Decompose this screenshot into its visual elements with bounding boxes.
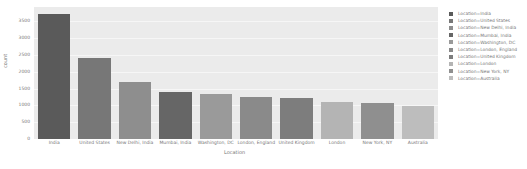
legend-label: Location=United States bbox=[458, 18, 510, 23]
legend-label: Location=Washington, DC bbox=[458, 40, 515, 45]
legend-item[interactable]: Location=New York, NY bbox=[449, 68, 517, 75]
x-tick-label: India bbox=[34, 140, 74, 146]
legend-label: Location=Australia bbox=[458, 76, 500, 81]
x-tick-label: United Kingdom bbox=[276, 140, 316, 146]
legend-swatch-icon bbox=[449, 48, 453, 52]
y-tick-label: 0 bbox=[0, 136, 30, 142]
x-tick-label: United States bbox=[74, 140, 114, 146]
legend-item[interactable]: Location=Washington, DC bbox=[449, 39, 517, 46]
bar[interactable] bbox=[361, 103, 393, 139]
y-tick-label: 1000 bbox=[0, 102, 30, 108]
legend-swatch-icon bbox=[449, 19, 453, 23]
x-tick-label: Washington, DC bbox=[196, 140, 236, 146]
y-tick-label: 1500 bbox=[0, 86, 30, 92]
y-tick-label: 500 bbox=[0, 119, 30, 125]
legend-item[interactable]: Location=New Delhi, India bbox=[449, 24, 517, 31]
bar[interactable] bbox=[200, 94, 232, 139]
legend-label: Location=New York, NY bbox=[458, 69, 509, 74]
legend-swatch-icon bbox=[449, 55, 453, 59]
x-tick-label: Mumbai, India bbox=[155, 140, 195, 146]
legend-swatch-icon bbox=[449, 12, 453, 16]
x-tick-label: Australia bbox=[398, 140, 438, 146]
legend-label: Location=London, England bbox=[458, 47, 517, 52]
x-tick-label: London bbox=[317, 140, 357, 146]
legend-item[interactable]: Location=Australia bbox=[449, 75, 517, 82]
legend-label: Location=Mumbai, India bbox=[458, 33, 511, 38]
y-axis-label: count bbox=[2, 54, 8, 68]
bar[interactable] bbox=[280, 98, 312, 139]
legend-item[interactable]: Location=Mumbai, India bbox=[449, 32, 517, 39]
x-tick-label: London, England bbox=[236, 140, 276, 146]
legend-swatch-icon bbox=[449, 69, 453, 73]
legend-swatch-icon bbox=[449, 40, 453, 44]
bar[interactable] bbox=[78, 58, 110, 139]
bar[interactable] bbox=[321, 102, 353, 139]
legend-label: Location=India bbox=[458, 11, 491, 16]
legend: Location=IndiaLocation=United StatesLoca… bbox=[449, 10, 517, 82]
bar[interactable] bbox=[240, 97, 272, 139]
bar[interactable] bbox=[119, 82, 151, 139]
legend-label: Location=London bbox=[458, 61, 496, 66]
x-axis-label: Location bbox=[224, 149, 245, 155]
legend-label: Location=New Delhi, India bbox=[458, 25, 516, 30]
gridline bbox=[34, 55, 438, 56]
legend-swatch-icon bbox=[449, 62, 453, 66]
legend-item[interactable]: Location=London, England bbox=[449, 46, 517, 53]
y-tick-label: 3000 bbox=[0, 35, 30, 41]
legend-label: Location=United Kingdom bbox=[458, 54, 516, 59]
y-tick-label: 2000 bbox=[0, 69, 30, 75]
legend-item[interactable]: Location=United States bbox=[449, 17, 517, 24]
legend-item[interactable]: Location=United Kingdom bbox=[449, 53, 517, 60]
legend-swatch-icon bbox=[449, 76, 453, 80]
bar[interactable] bbox=[402, 106, 434, 139]
gridline bbox=[34, 38, 438, 39]
legend-swatch-icon bbox=[449, 33, 453, 37]
legend-swatch-icon bbox=[449, 26, 453, 30]
gridline bbox=[34, 21, 438, 22]
y-tick-label: 3500 bbox=[0, 18, 30, 24]
bar[interactable] bbox=[38, 14, 70, 139]
bar[interactable] bbox=[159, 92, 191, 139]
x-tick-label: New Delhi, India bbox=[115, 140, 155, 146]
x-tick-label: New York, NY bbox=[357, 140, 397, 146]
legend-item[interactable]: Location=London bbox=[449, 60, 517, 67]
legend-item[interactable]: Location=India bbox=[449, 10, 517, 17]
